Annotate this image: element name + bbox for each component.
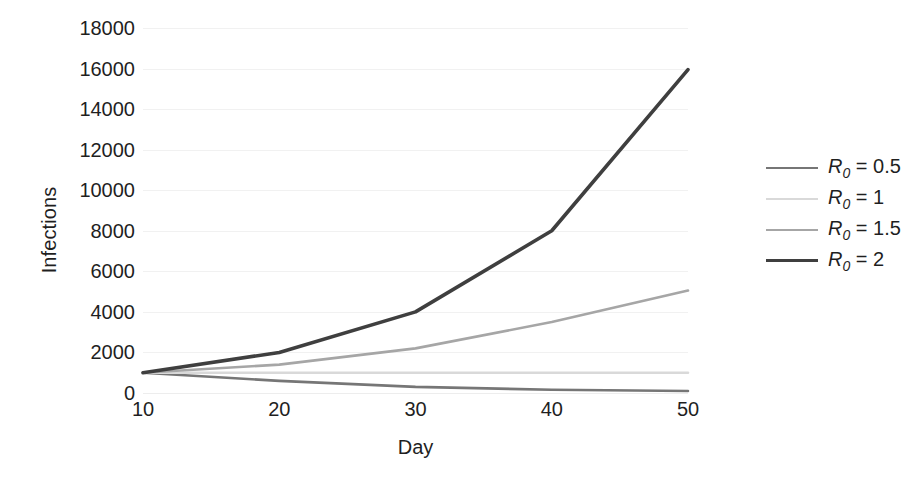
legend-label: R0 = 1 [828, 186, 884, 212]
gridline [143, 393, 688, 394]
y-axis-tick-label: 12000 [79, 138, 135, 161]
x-axis-tick-label: 10 [132, 398, 154, 421]
legend-item[interactable]: R0 = 2 [766, 245, 916, 276]
legend-item[interactable]: R0 = 1 [766, 183, 916, 214]
x-axis-tick-label: 40 [541, 398, 563, 421]
legend-item[interactable]: R0 = 1.5 [766, 214, 916, 245]
y-axis-tick-label: 4000 [91, 300, 136, 323]
x-axis-tick-label: 50 [677, 398, 699, 421]
x-axis-title: Day [143, 436, 688, 459]
y-axis-tick-label: 18000 [79, 17, 135, 40]
y-axis-tick-label: 10000 [79, 179, 135, 202]
y-axis-tick-label: 6000 [91, 260, 136, 283]
series-lines [143, 28, 688, 393]
plot-area [143, 28, 688, 393]
legend-swatch [766, 198, 818, 200]
y-axis-tick-label: 2000 [91, 341, 136, 364]
legend-swatch [766, 259, 818, 262]
legend-label: R0 = 1.5 [828, 217, 901, 243]
legend-swatch [766, 229, 818, 231]
series-line [143, 70, 688, 373]
y-axis-tick-labels: 0200040006000800010000120001400016000180… [40, 28, 143, 393]
legend: R0 = 0.5R0 = 1R0 = 1.5R0 = 2 [766, 152, 916, 276]
legend-item[interactable]: R0 = 0.5 [766, 152, 916, 183]
legend-label: R0 = 0.5 [828, 155, 901, 181]
series-line [143, 373, 688, 391]
x-axis-tick-label: 20 [268, 398, 290, 421]
x-axis-tick-labels: 1020304050 [143, 398, 688, 428]
y-axis-tick-label: 8000 [91, 219, 136, 242]
x-axis-tick-label: 30 [404, 398, 426, 421]
legend-swatch [766, 167, 818, 169]
chart-container: Infections 02000400060008000100001200014… [0, 0, 918, 485]
y-axis-tick-label: 14000 [79, 98, 135, 121]
y-axis-tick-label: 16000 [79, 57, 135, 80]
legend-label: R0 = 2 [828, 248, 884, 274]
